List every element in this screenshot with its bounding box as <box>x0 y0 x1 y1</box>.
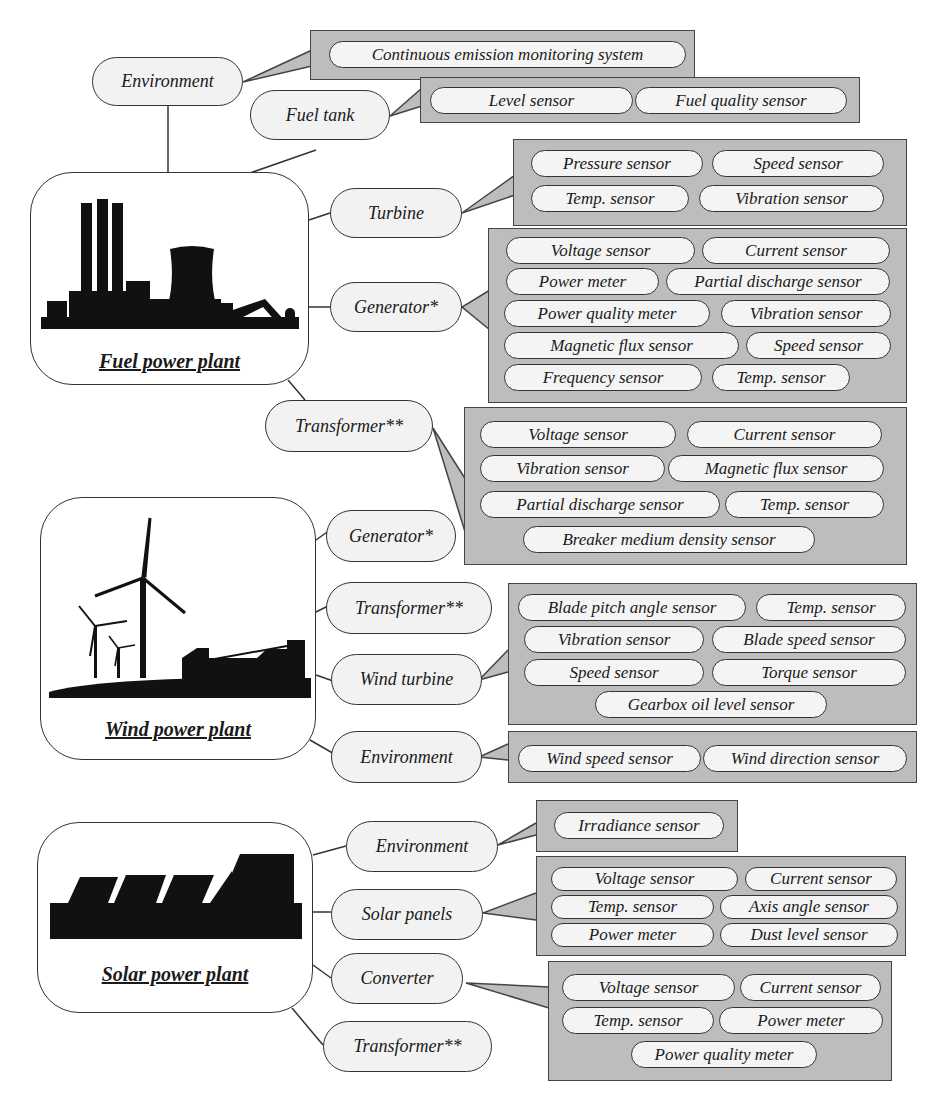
solar-transformer-node[interactable]: Transformer** <box>323 1021 492 1072</box>
solar-panel-silhouette-icon <box>50 851 302 941</box>
sensor-pill: Speed sensor <box>712 150 884 177</box>
wind-environment-sensors-callout: Wind speed sensor Wind direction sensor <box>508 731 917 783</box>
sensor-pill: Vibration sensor <box>721 300 891 327</box>
generator-sensors-callout: Voltage sensor Current sensor Power mete… <box>488 228 907 403</box>
sensor-pill: Current sensor <box>687 421 882 448</box>
sensor-pill: Current sensor <box>740 974 881 1001</box>
transformer-sensors-callout: Voltage sensor Current sensor Vibration … <box>464 407 907 565</box>
sensor-pill: Voltage sensor <box>562 974 735 1001</box>
sensor-pill: Fuel quality sensor <box>635 87 847 114</box>
sensor-pill: Magnetic flux sensor <box>504 332 739 359</box>
wind-turbine-node[interactable]: Wind turbine <box>331 654 482 705</box>
sensor-pill: Breaker medium density sensor <box>523 526 815 553</box>
sensor-pill: Gearbox oil level sensor <box>595 691 827 718</box>
sensor-pill: Vibration sensor <box>699 185 884 212</box>
sensor-pill: Temp. sensor <box>531 185 689 212</box>
wind-transformer-node[interactable]: Transformer** <box>326 582 492 634</box>
solar-environment-sensors-callout: Irradiance sensor <box>536 800 738 852</box>
sensor-pill: Frequency sensor <box>504 364 702 391</box>
fuel-generator-node[interactable]: Generator* <box>330 282 462 332</box>
sensor-pill: Power meter <box>506 268 659 295</box>
sensor-pill: Vibration sensor <box>524 626 704 653</box>
sensor-pill: Power meter <box>719 1007 883 1034</box>
solar-panels-sensors-callout: Voltage sensor Current sensor Temp. sens… <box>536 856 906 956</box>
solar-power-plant-label: Solar power plant <box>38 963 312 986</box>
wind-turbine-sensors-callout: Blade pitch angle sensor Temp. sensor Vi… <box>508 583 917 725</box>
sensor-pill: Power meter <box>551 923 714 947</box>
sensor-pill: Magnetic flux sensor <box>668 455 884 482</box>
sensor-pill: Temp. sensor <box>756 594 906 621</box>
converter-sensors-callout: Voltage sensor Current sensor Temp. sens… <box>548 961 892 1081</box>
solar-converter-node[interactable]: Converter <box>331 953 463 1004</box>
solar-environment-node[interactable]: Environment <box>346 821 498 872</box>
sensor-pill: Voltage sensor <box>506 237 695 264</box>
wind-power-plant-box: Wind power plant <box>40 497 316 760</box>
sensor-pill: Current sensor <box>745 867 897 891</box>
sensor-pill: Temp. sensor <box>551 895 714 919</box>
sensor-pill: Irradiance sensor <box>554 812 724 839</box>
sensor-pill: Power quality meter <box>631 1041 817 1068</box>
sensor-pill: Current sensor <box>702 237 890 264</box>
sensor-pill: Axis angle sensor <box>720 895 898 919</box>
turbine-sensors-callout: Pressure sensor Speed sensor Temp. senso… <box>513 139 907 226</box>
wind-turbine-silhouette-icon <box>47 508 311 698</box>
sensor-pill: Temp. sensor <box>712 364 850 391</box>
solar-power-plant-box: Solar power plant <box>37 822 313 1013</box>
sensor-pill: Wind direction sensor <box>703 745 907 772</box>
fuel-power-plant-label: Fuel power plant <box>31 350 308 373</box>
sensor-pill: Continuous emission monitoring system <box>329 41 686 68</box>
solar-panels-node[interactable]: Solar panels <box>331 889 483 940</box>
sensor-pill: Blade pitch angle sensor <box>518 594 746 621</box>
fuel-environment-node[interactable]: Environment <box>92 57 243 106</box>
sensor-pill: Power quality meter <box>504 300 710 327</box>
wind-power-plant-label: Wind power plant <box>41 718 315 741</box>
wind-environment-node[interactable]: Environment <box>331 731 482 783</box>
sensor-pill: Level sensor <box>430 87 633 114</box>
sensor-pill: Vibration sensor <box>480 455 665 482</box>
sensor-pill: Temp. sensor <box>562 1007 714 1034</box>
sensor-pill: Speed sensor <box>524 659 704 686</box>
sensor-pill: Dust level sensor <box>720 923 898 947</box>
fuel-turbine-node[interactable]: Turbine <box>330 188 462 238</box>
fuel-power-plant-box: Fuel power plant <box>30 172 309 385</box>
fuel-plant-silhouette-icon <box>39 181 301 331</box>
sensor-pill: Temp. sensor <box>725 491 884 518</box>
fuel-environment-sensors-callout: Continuous emission monitoring system <box>310 30 695 80</box>
sensor-pill: Pressure sensor <box>531 150 703 177</box>
sensor-pill: Partial discharge sensor <box>666 268 890 295</box>
sensor-pill: Torque sensor <box>712 659 906 686</box>
fuel-transformer-node[interactable]: Transformer** <box>265 400 433 452</box>
sensor-pill: Voltage sensor <box>551 867 738 891</box>
sensor-pill: Speed sensor <box>746 332 891 359</box>
fuel-tank-node[interactable]: Fuel tank <box>250 90 390 140</box>
sensor-pill: Voltage sensor <box>480 421 676 448</box>
sensor-pill: Partial discharge sensor <box>480 491 720 518</box>
sensor-pill: Wind speed sensor <box>518 745 701 772</box>
fuel-tank-sensors-callout: Level sensor Fuel quality sensor <box>420 77 860 123</box>
sensor-pill: Blade speed sensor <box>712 626 906 653</box>
wind-generator-node[interactable]: Generator* <box>326 510 456 562</box>
